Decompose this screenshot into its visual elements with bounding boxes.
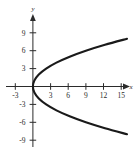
- x-axis-label: x: [128, 83, 133, 91]
- x-tick-label: 9: [84, 91, 88, 100]
- y-tick-label: -9: [19, 136, 25, 145]
- graph-figure: -3 3 6 9 12 15 9 6 3 -3 -6 -9 x y: [0, 0, 137, 151]
- y-tick-label: -3: [19, 100, 25, 109]
- y-tick-label: -6: [19, 118, 25, 127]
- y-tick-label: 9: [22, 29, 26, 38]
- y-axis-label: y: [30, 5, 35, 13]
- y-tick-label: 3: [22, 64, 26, 73]
- x-tick-label: 3: [49, 91, 53, 100]
- x-tick-label: -3: [12, 91, 18, 100]
- x-tick-label: 12: [100, 91, 108, 100]
- y-tick-label: 6: [22, 46, 26, 55]
- coordinate-plane-svg: -3 3 6 9 12 15 9 6 3 -3 -6 -9 x y: [0, 0, 137, 151]
- x-tick-label: 6: [66, 91, 70, 100]
- x-tick-label: 15: [117, 91, 125, 100]
- y-axis-arrow-icon: [30, 14, 36, 21]
- x-axis: [6, 83, 130, 90]
